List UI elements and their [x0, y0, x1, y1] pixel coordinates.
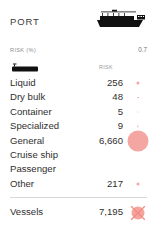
risk-bubble [137, 182, 140, 185]
page-title: PORT [10, 16, 40, 27]
row-label: Specialized [10, 120, 59, 131]
risk-bubble-cell [119, 105, 157, 119]
cross-marker-icon [130, 205, 147, 222]
risk-bubble-cell [119, 177, 157, 191]
row-label: Other [10, 178, 34, 189]
row-label: Container [10, 106, 52, 117]
risk-bubble-cell [119, 76, 157, 90]
risk-bubble-cell [119, 134, 157, 148]
row-label: Cruise ship [10, 149, 58, 160]
vessel-silhouette-icon [9, 62, 41, 74]
table-row[interactable]: Passenger [0, 162, 157, 176]
table-row[interactable]: General6,660 [0, 134, 157, 148]
risk-bubble [137, 126, 138, 127]
risk-bubble [137, 97, 139, 99]
total-label: Vessels [10, 206, 43, 217]
row-label: Dry bulk [10, 91, 45, 102]
total-divider [10, 197, 147, 198]
risk-percent-row: RISK (%) 0.7 [0, 44, 157, 62]
table-row[interactable]: Container5 [0, 105, 157, 119]
cargo-ship-icon [95, 8, 147, 30]
table-row[interactable]: Cruise ship [0, 148, 157, 162]
row-label: Liquid [10, 77, 36, 88]
table-row[interactable]: Dry bulk48 [0, 90, 157, 104]
table-column-header: RISK [0, 62, 157, 76]
risk-bubble [137, 111, 138, 112]
risk-column-header-label: RISK [99, 64, 113, 70]
risk-percent-value: 0.7 [138, 46, 147, 53]
risk-bubble-cell [119, 162, 157, 176]
table-row[interactable]: Other217 [0, 177, 157, 191]
row-label: General [10, 135, 44, 146]
risk-bubble-cell [119, 148, 157, 162]
vessel-category-table: Liquid256Dry bulk48Container5Specialized… [0, 76, 157, 191]
total-risk-cell [119, 203, 157, 223]
table-row[interactable]: Liquid256 [0, 76, 157, 90]
row-label: Passenger [10, 163, 56, 174]
risk-percent-label: RISK (%) [10, 47, 36, 53]
risk-bubble-cell [119, 90, 157, 104]
port-risk-panel: PORT [0, 0, 157, 229]
risk-bubble [136, 82, 139, 85]
panel-header: PORT [0, 0, 157, 44]
total-row: Vessels 7,195 [0, 203, 157, 223]
